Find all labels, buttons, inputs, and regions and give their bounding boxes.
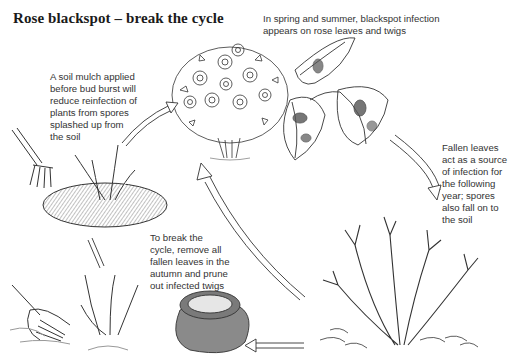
lifecycle-illustration [0,0,517,360]
arrow-left-icon [245,339,304,352]
leaf-sack-icon [176,291,249,353]
mulched-rose-icon [43,145,167,227]
flowering-rose-bush-icon [172,44,288,160]
pruned-rose-icon [81,275,138,350]
arrow-down-left-icon [88,238,104,268]
arrow-to-fallen-icon [390,135,441,200]
bare-rose-bush-icon [320,217,478,348]
arrow-to-spring-icon [122,102,178,146]
infected-leaves-icon [284,38,388,160]
arrow-up-icon [197,163,305,300]
garden-fork-icon [12,128,53,188]
rake-icon [10,285,70,344]
